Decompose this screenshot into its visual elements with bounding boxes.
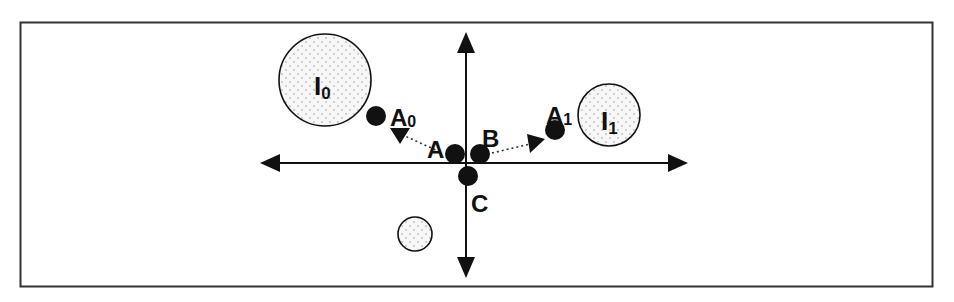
point-C-dot xyxy=(458,166,478,186)
point-A0: A0 xyxy=(366,104,416,131)
dotted-arrow-B-to-A1 xyxy=(492,134,545,153)
dotted-arrow-B-arrowhead-icon xyxy=(527,134,545,153)
point-C: C xyxy=(458,166,488,217)
point-C-label: C xyxy=(471,190,488,217)
region-I0-circle xyxy=(279,34,371,126)
point-B-label: B xyxy=(482,125,499,152)
point-A1-label: A1 xyxy=(546,102,572,129)
region-unlabeled-circle xyxy=(398,217,432,251)
x-axis-right-arrowhead-icon xyxy=(668,154,688,172)
region-I0: I0 xyxy=(279,34,371,126)
y-axis-top-arrowhead-icon xyxy=(457,32,475,53)
region-I1: I1 xyxy=(578,84,640,146)
region-unlabeled xyxy=(398,217,432,251)
point-A: A xyxy=(427,136,465,164)
diagram-canvas: I0 I1 A0 A1 A B C xyxy=(0,0,954,302)
point-B: B xyxy=(470,125,499,164)
point-A-label: A xyxy=(427,136,444,163)
y-axis-bottom-arrowhead-icon xyxy=(457,257,475,278)
point-A1: A1 xyxy=(545,102,572,140)
x-axis-left-arrowhead-icon xyxy=(260,154,280,172)
point-A-dot xyxy=(445,144,465,164)
point-A0-dot xyxy=(366,106,386,126)
point-A0-label: A0 xyxy=(390,104,416,131)
